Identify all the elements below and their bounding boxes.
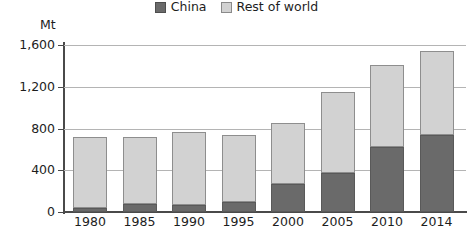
bar-segment-china[interactable] [321,173,355,212]
bar-segment-rest-of-world[interactable] [271,123,305,184]
bar-segment-china[interactable] [123,204,157,212]
bar-segment-china[interactable] [172,205,206,212]
y-axis-tick-label: 800 [31,122,55,135]
bar-segment-china[interactable] [271,184,305,212]
x-axis-tick-label: 2014 [407,216,467,229]
plot-area: 04008001,2001,600 [64,45,466,212]
legend-item-china: China [155,1,207,14]
y-axis-tick-label: 1,600 [19,39,55,52]
bar-segment-rest-of-world[interactable] [321,92,355,173]
y-axis-tick-label: 0 [47,206,55,219]
y-axis-tick-label: 1,200 [19,81,55,94]
y-axis-tick-mark [58,45,63,46]
legend-label-china: China [171,1,207,14]
gridline [64,87,466,88]
y-axis-unit-label: Mt [40,19,56,32]
chart-screenshot: China Rest of world Mt 04008001,2001,600… [0,0,473,240]
bar-segment-china[interactable] [222,202,256,212]
bar-segment-china[interactable] [370,147,404,212]
gridline [64,45,466,46]
bar-segment-china[interactable] [73,208,107,212]
legend-label-rest-of-world: Rest of world [237,1,319,14]
legend-item-rest-of-world: Rest of world [221,1,319,14]
china-swatch-icon [155,2,166,13]
bar-segment-rest-of-world[interactable] [123,137,157,204]
y-axis-tick-mark [58,129,63,130]
rest-of-world-swatch-icon [221,2,232,13]
bar-segment-china[interactable] [420,135,454,212]
y-axis-tick-mark [58,212,63,213]
bar-segment-rest-of-world[interactable] [370,65,404,147]
bar-segment-rest-of-world[interactable] [222,135,256,202]
bar-segment-rest-of-world[interactable] [172,132,206,205]
y-axis-tick-mark [58,170,63,171]
y-axis-tick-label: 400 [31,164,55,177]
bar-segment-rest-of-world[interactable] [73,137,107,208]
chart-legend: China Rest of world [0,1,473,14]
gridline [64,129,466,130]
bar-segment-rest-of-world[interactable] [420,51,454,135]
y-axis-tick-mark [58,87,63,88]
